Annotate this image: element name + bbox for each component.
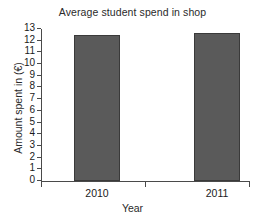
y-tick-mark [37,145,41,146]
x-axis-divider [145,181,146,187]
plot-area [41,29,249,181]
y-tick-mark [37,168,41,169]
y-tick-mark [37,28,41,29]
y-tick-mark [37,75,41,76]
x-axis-label: Year [0,202,265,214]
y-axis-label: Amount spent in (€) [12,28,24,188]
chart-title: Average student spend in shop [0,6,265,18]
y-tick-mark [37,122,41,123]
y-tick-mark [37,157,41,158]
y-tick-label: 4 [29,127,35,138]
y-tick-label: 2 [29,151,35,162]
y-tick-label: 1 [29,162,35,173]
bar-2010 [74,35,120,181]
y-tick-mark [37,40,41,41]
y-tick-mark [37,98,41,99]
y-tick-label: 3 [29,139,35,150]
y-tick-label: 6 [29,104,35,115]
x-axis-divider [41,181,42,187]
y-tick-label: 5 [29,116,35,127]
y-tick-mark [37,51,41,52]
y-tick-mark [37,86,41,87]
bar-2011 [194,33,240,181]
y-tick-label: 12 [24,34,35,45]
y-tick-mark [37,110,41,111]
y-tick-label: 9 [29,69,35,80]
bar-chart: Average student spend in shop Amount spe… [0,0,265,221]
y-tick-label: 10 [24,57,35,68]
x-tick-label-2010: 2010 [67,187,127,199]
x-axis-divider [249,181,250,187]
y-tick-label: 11 [25,45,35,56]
y-tick-mark [37,133,41,134]
y-axis-line [41,29,42,182]
y-tick-label: 13 [24,22,35,33]
y-tick-label: 7 [29,92,35,103]
y-tick-label: 8 [29,80,35,91]
y-tick-mark [37,63,41,64]
x-tick-label-2011: 2011 [187,187,247,199]
y-tick-label: 0 [29,174,35,185]
